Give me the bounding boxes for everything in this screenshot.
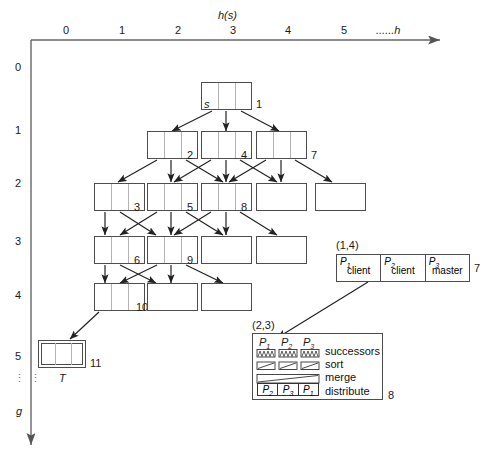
node-cell-divider [273,132,274,158]
processor-2-role: client [381,265,424,276]
node-cell-divider [235,132,236,158]
node-cell-divider [235,184,236,210]
legend-coord-label: (2,3) [252,320,275,331]
node-cell-divider [164,132,165,158]
x-tick-3: 3 [230,25,236,36]
node-r3c2-number: 9 [187,255,193,266]
callout-processors-box[interactable]: P1 client P2 client P3 master [336,254,470,282]
node-r2c2-number: 5 [187,202,193,213]
node-r4c2[interactable] [147,283,198,311]
node-r1c3-number: 4 [241,150,247,161]
distribute-cell-3[interactable]: P1 [299,384,318,395]
node-root-label: s [204,99,210,110]
terminal-label: T [59,373,66,384]
node-r3c1-number: 6 [134,255,140,266]
node-r1c2-number: 2 [187,150,193,161]
distribute-cell-2[interactable]: P3 [278,384,298,395]
node-r3c4[interactable] [256,236,307,264]
x-tick-5: 5 [341,25,347,36]
diagram-vector-layer [0,0,495,461]
node-cell-divider [111,184,112,210]
processor-cell-1[interactable]: P1 client [337,255,381,281]
terminal-node[interactable] [38,340,86,368]
terminal-number: 11 [90,358,101,369]
node-cell-divider [235,83,236,109]
node-cell-divider [218,83,219,109]
y-tick-4: 4 [15,290,21,301]
legend-label-successors: successors [325,346,380,357]
y-tick-1: 1 [15,125,21,136]
x-tick-2: 2 [175,25,181,36]
node-cell-divider [164,184,165,210]
distribute-cell-1[interactable]: P2 [258,384,278,395]
node-root-number: 1 [256,99,262,110]
node-cell-divider [181,132,182,158]
node-r2c4[interactable] [256,183,307,211]
y-tick-5: 5 [15,351,21,362]
node-cell-divider [218,184,219,210]
node-r1c4[interactable] [256,131,307,159]
y-axis-title: g [16,406,22,417]
legend-label-distribute: distribute [325,386,370,397]
figure-canvas: h(s) 0 1 2 3 4 5 ......h 0 1 2 3 4 5 ⋮ ⋮… [0,0,495,461]
y-tick-3: 3 [15,236,21,247]
callout-processors-number: 7 [474,263,480,274]
y-tick-0: 0 [15,62,21,73]
legend-number: 8 [388,390,394,401]
legend-label-merge: merge [325,372,356,383]
x-tick-1: 1 [119,25,125,36]
y-tick-2: 2 [15,178,21,189]
node-r2c1-number: 3 [134,202,140,213]
x-axis-title: h(s) [218,10,237,21]
node-cell-divider [164,237,165,263]
node-r2c3-number: 8 [241,202,247,213]
processor-3-role: master [426,265,469,276]
node-cell-divider [111,284,112,310]
node-r2c5[interactable] [315,183,366,211]
node-cell-divider [71,343,72,365]
node-cell-divider [55,343,56,365]
node-cell-divider [181,237,182,263]
x-axis-tail-label: ......h [376,25,400,36]
node-cell-divider [181,184,182,210]
legend-label-sort: sort [325,359,343,370]
terminal-inner-border [41,343,83,365]
x-tick-0: 0 [63,25,69,36]
node-r4c3[interactable] [201,283,252,311]
processor-cell-2[interactable]: P2 client [381,255,425,281]
node-r3c3[interactable] [201,236,252,264]
node-cell-divider [218,132,219,158]
node-cell-divider [128,284,129,310]
node-cell-divider [128,237,129,263]
node-cell-divider [290,132,291,158]
node-cell-divider [111,237,112,263]
node-cell-divider [128,184,129,210]
node-r1c4-number: 7 [311,150,317,161]
x-tick-4: 4 [285,25,291,36]
processor-cell-3[interactable]: P3 master [426,255,469,281]
callout-processors-coord: (1,4) [336,240,359,251]
processor-1-role: client [337,265,380,276]
y-axis-ellipsis: ⋮ ⋮ [14,376,42,381]
legend-distribute-cells[interactable]: P2 P3 P1 [257,383,319,396]
